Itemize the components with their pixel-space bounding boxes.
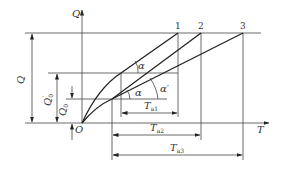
ta3-label: Ta3 bbox=[170, 142, 184, 154]
q-axis-label: Q bbox=[72, 8, 80, 19]
angle-alpha-lower-label: α bbox=[135, 87, 142, 98]
svg-text:Q0′: Q0′ bbox=[41, 94, 54, 106]
ta1-label: Ta1 bbox=[144, 100, 158, 112]
angle-alpha-prime-label: α′ bbox=[160, 83, 170, 94]
angle-alpha-prime-arc bbox=[150, 78, 158, 99]
q0-prime-dim-label: Q0′ bbox=[41, 94, 54, 106]
q0-dim-label: Q0 bbox=[57, 104, 69, 116]
curve-label-1: 1 bbox=[175, 21, 181, 31]
curve-label-3: 3 bbox=[240, 21, 246, 31]
angle-alpha-upper-label: α bbox=[138, 60, 145, 71]
t-axis-label: T bbox=[257, 124, 265, 135]
q-dim-label: Q bbox=[15, 76, 26, 84]
svg-text:Q0: Q0 bbox=[57, 104, 69, 116]
characteristic-diagram: Q T O 1 2 3 Q Q0′ Q0 α α α′ Ta1 Ta2 Ta3 bbox=[0, 0, 284, 173]
curve-label-2: 2 bbox=[198, 21, 204, 31]
curve-2 bbox=[82, 33, 201, 123]
ta2-label: Ta2 bbox=[150, 122, 164, 134]
origin-label: O bbox=[75, 124, 83, 135]
svg-text:Q: Q bbox=[15, 76, 26, 84]
curve-1 bbox=[82, 33, 178, 123]
